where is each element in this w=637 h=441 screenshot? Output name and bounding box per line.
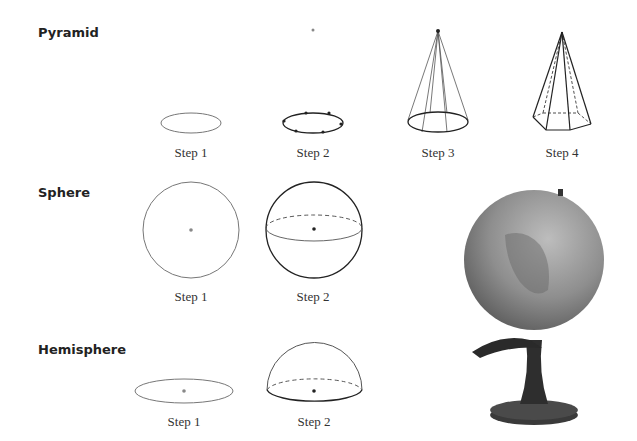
- pyramid-step4-figure: [533, 32, 591, 130]
- hemisphere-step1-label: Step 1: [144, 414, 224, 430]
- sphere-step2-figure: [266, 182, 362, 278]
- globe-photo: [464, 189, 604, 425]
- hemisphere-step2-figure: [267, 342, 362, 401]
- hemisphere-step2-label: Step 2: [274, 414, 354, 430]
- diagrams: [0, 0, 637, 441]
- pyramid-step3-label: Step 3: [398, 145, 478, 161]
- page: Pyramid Sphere Hemisphere: [0, 0, 637, 441]
- pyramid-step1-figure: [161, 113, 221, 133]
- pyramid-step4-label: Step 4: [522, 145, 602, 161]
- sphere-step1-figure: [143, 182, 239, 278]
- pyramid-step2-label: Step 2: [273, 145, 353, 161]
- pyramid-step2-figure: [282, 29, 343, 134]
- pyramid-step3-figure: [408, 29, 468, 132]
- hemisphere-step1-figure: [135, 379, 233, 403]
- pyramid-step1-label: Step 1: [151, 145, 231, 161]
- sphere-step2-label: Step 2: [273, 289, 353, 305]
- sphere-step1-label: Step 1: [151, 289, 231, 305]
